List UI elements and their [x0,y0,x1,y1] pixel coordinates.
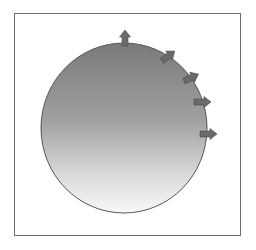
sphere [41,43,207,213]
sphere-diagram [0,0,256,250]
